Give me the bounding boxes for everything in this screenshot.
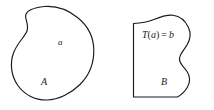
set-label-b: B	[161, 77, 167, 87]
set-a-outline	[11, 6, 93, 100]
figure-canvas	[0, 0, 214, 110]
set-mapping-figure: a A T(a) = b B	[0, 0, 214, 110]
mapping-equals: =	[159, 29, 169, 40]
point-label-a: a	[58, 38, 63, 47]
mapping-result: b	[169, 29, 174, 40]
mapping-equation: T(a) = b	[142, 30, 174, 40]
set-label-a: A	[41, 77, 47, 87]
